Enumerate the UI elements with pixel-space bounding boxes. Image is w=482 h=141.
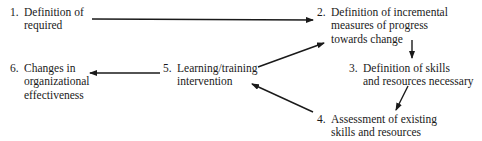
node-4-line-1: Assessment of existing: [331, 113, 437, 125]
node-2-incremental-measures: 2.Definition of incremental measures of …: [317, 6, 448, 46]
node-1-line-1: Definition of: [24, 6, 84, 18]
node-6-line-3: effectiveness: [10, 89, 90, 102]
node-2-line-1: Definition of incremental: [331, 6, 448, 18]
arrow-4-to-5: [252, 84, 313, 112]
node-6-organizational-effectiveness: 6.Changes in organizational effectivenes…: [10, 62, 90, 102]
arrow-3-to-4: [396, 86, 408, 110]
node-1-definition-required: 1.Definition of required: [10, 6, 84, 33]
node-3-line-2: and resources necessary: [349, 75, 473, 88]
node-2-number: 2.: [317, 6, 331, 19]
node-3-number: 3.: [349, 62, 363, 75]
node-5-learning-training: 5.Learning/training intervention: [163, 62, 257, 89]
arrow-1-to-2: [92, 19, 313, 20]
node-5-number: 5.: [163, 62, 177, 75]
node-3-skills-resources-necessary: 3.Definition of skills and resources nec…: [349, 62, 473, 89]
node-2-line-3: towards change: [317, 33, 448, 46]
node-6-line-2: organizational: [10, 75, 90, 88]
arrow-5-to-2: [258, 43, 324, 67]
node-1-line-2: required: [10, 19, 84, 32]
node-6-number: 6.: [10, 62, 24, 75]
node-2-line-2: measures of progress: [317, 19, 448, 32]
node-4-assessment-existing: 4.Assessment of existing skills and reso…: [317, 113, 437, 140]
node-3-line-1: Definition of skills: [363, 62, 450, 74]
node-6-line-1: Changes in: [24, 62, 75, 74]
node-4-number: 4.: [317, 113, 331, 126]
node-5-line-1: Learning/training: [177, 62, 257, 74]
node-1-number: 1.: [10, 6, 24, 19]
node-4-line-2: skills and resources: [317, 126, 437, 139]
node-5-line-2: intervention: [163, 75, 257, 88]
